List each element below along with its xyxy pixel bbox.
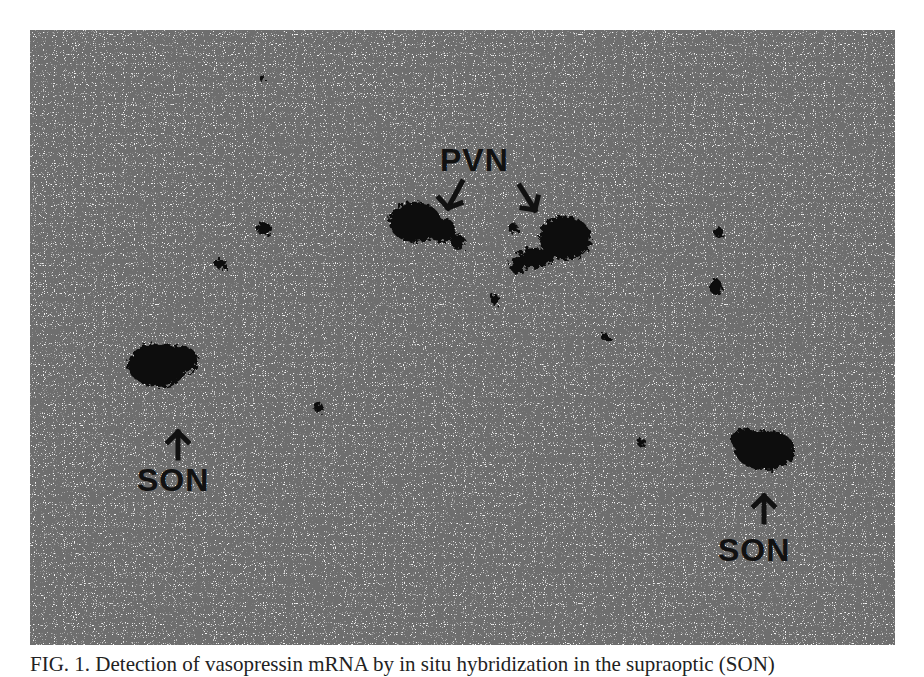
son-left-label: SON <box>137 462 209 499</box>
autoradiograph-panel: PVN SON SON <box>30 30 895 645</box>
pvn-label: PVN <box>440 142 509 179</box>
son-right-label: SON <box>718 532 790 569</box>
figure-caption: FIG. 1. Detection of vasopressin mRNA by… <box>30 652 910 677</box>
